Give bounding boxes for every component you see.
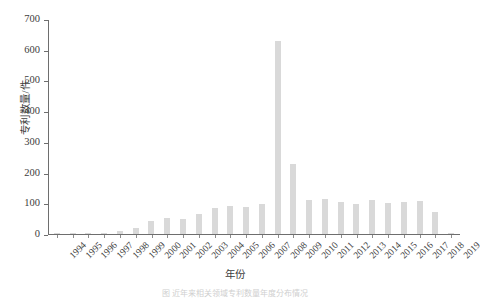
x-tick-mark — [104, 235, 105, 238]
bar — [353, 204, 359, 234]
bar-slot — [317, 20, 333, 234]
bar-slot — [49, 20, 65, 234]
x-tick-mark — [435, 235, 436, 238]
x-tick-mark — [451, 235, 452, 238]
x-tick-mark — [215, 235, 216, 238]
y-tick-label: 0 — [35, 228, 40, 239]
bar — [148, 221, 154, 234]
y-tick-label: 300 — [24, 136, 40, 147]
x-tick-mark — [325, 235, 326, 238]
x-tick-mark — [404, 235, 405, 238]
bar-slot — [254, 20, 270, 234]
bar-slot — [396, 20, 412, 234]
x-tick-mark — [357, 235, 358, 238]
bar-slot — [364, 20, 380, 234]
y-tick-mark — [44, 20, 48, 21]
bar-slot — [112, 20, 128, 234]
bar-slot — [144, 20, 160, 234]
bar — [448, 233, 454, 234]
y-tick-label: 700 — [24, 13, 40, 24]
y-tick-mark — [44, 204, 48, 205]
y-tick-label: 100 — [24, 197, 40, 208]
x-tick-mark — [278, 235, 279, 238]
bar-slot — [443, 20, 459, 234]
x-tick-label: 2012 — [351, 240, 372, 261]
bar — [117, 231, 123, 234]
bar — [243, 207, 249, 234]
bar — [322, 199, 328, 234]
bar — [417, 201, 423, 234]
bar — [385, 203, 391, 234]
x-tick-mark — [420, 235, 421, 238]
bar-slot — [128, 20, 144, 234]
bar — [306, 200, 312, 234]
y-tick-mark — [44, 81, 48, 82]
bar — [401, 202, 407, 234]
bar — [196, 214, 202, 234]
bar-slot — [207, 20, 223, 234]
bar — [369, 200, 375, 234]
y-tick-label: 600 — [24, 44, 40, 55]
x-tick-mark — [136, 235, 137, 238]
y-tick-label: 200 — [24, 167, 40, 178]
x-tick-mark — [246, 235, 247, 238]
bar-slot — [380, 20, 396, 234]
bar-slot — [191, 20, 207, 234]
x-tick-mark — [57, 235, 58, 238]
bar-slot — [175, 20, 191, 234]
bar-slot — [222, 20, 238, 234]
x-tick-mark — [167, 235, 168, 238]
bar — [101, 233, 107, 234]
bar — [133, 228, 139, 234]
bar-slot — [412, 20, 428, 234]
bar-slot — [238, 20, 254, 234]
x-tick-mark — [262, 235, 263, 238]
bar — [227, 206, 233, 234]
y-tick-mark — [44, 112, 48, 113]
bar — [290, 164, 296, 234]
x-tick-label: 2019 — [462, 240, 482, 261]
x-axis-label: 年份 — [0, 266, 469, 281]
x-tick-label: 1999 — [146, 240, 167, 261]
bar-slot — [286, 20, 302, 234]
y-tick-mark — [44, 51, 48, 52]
bar — [70, 233, 76, 234]
bar — [54, 233, 60, 234]
x-axis-line — [48, 234, 460, 235]
y-tick-label: 500 — [24, 74, 40, 85]
y-tick-mark — [44, 143, 48, 144]
x-tick-mark — [183, 235, 184, 238]
bar — [212, 208, 218, 234]
bar-slot — [333, 20, 349, 234]
bar-slot — [96, 20, 112, 234]
y-tick-label: 400 — [24, 105, 40, 116]
bar — [275, 41, 281, 234]
bar-slot — [270, 20, 286, 234]
x-tick-mark — [341, 235, 342, 238]
y-tick-mark — [44, 235, 48, 236]
bar-slot — [301, 20, 317, 234]
x-tick-mark — [120, 235, 121, 238]
figure-caption: 图 近年来相关领域专利数量年度分布情况 — [0, 287, 469, 298]
x-tick-mark — [73, 235, 74, 238]
bar — [164, 218, 170, 234]
bar — [338, 202, 344, 234]
bar-slot — [427, 20, 443, 234]
x-tick-mark — [152, 235, 153, 238]
bar-slot — [349, 20, 365, 234]
y-tick-mark — [44, 174, 48, 175]
bar-slot — [81, 20, 97, 234]
x-tick-mark — [372, 235, 373, 238]
x-tick-mark — [388, 235, 389, 238]
bar-slot — [65, 20, 81, 234]
bar — [85, 233, 91, 234]
x-tick-mark — [230, 235, 231, 238]
bar-series — [49, 20, 460, 234]
bar — [259, 204, 265, 234]
x-tick-mark — [293, 235, 294, 238]
x-tick-label: 2011 — [335, 240, 355, 260]
x-tick-mark — [309, 235, 310, 238]
plot-area: 0100200300400500600700 — [48, 20, 460, 235]
bar — [180, 219, 186, 234]
